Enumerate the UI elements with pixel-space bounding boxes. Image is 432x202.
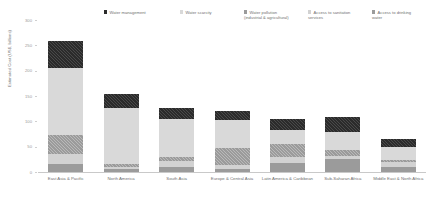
bar-segment xyxy=(381,160,416,163)
bar-segment xyxy=(215,165,250,169)
legend-label-drinking-water: Access to drinking water xyxy=(372,10,411,20)
y-axis-tick-mark xyxy=(35,45,37,46)
y-axis-tick-mark xyxy=(35,20,37,21)
legend-item-water-management[interactable]: Water management xyxy=(104,10,170,15)
bar-segment xyxy=(48,154,83,164)
bar-segment xyxy=(270,144,305,157)
legend-swatch-drinking-water xyxy=(372,10,375,13)
bar-segment xyxy=(325,117,360,132)
y-axis-tick-mark xyxy=(35,147,37,148)
bar-sub-saharan-africa[interactable] xyxy=(325,20,360,172)
y-axis-tick-label: 200 xyxy=(16,68,32,73)
y-axis-tick-label: 300 xyxy=(16,18,32,23)
y-axis-tick-label: 100 xyxy=(16,119,32,124)
legend-swatch-water-scarcity xyxy=(180,10,183,13)
bar-latin-america-caribbean[interactable] xyxy=(270,20,305,172)
x-axis-tick-label: North America xyxy=(93,176,148,182)
legend-label-water-pollution: Water pollution (industrial & agricultur… xyxy=(244,10,289,20)
bar-segment xyxy=(159,157,194,161)
bar-segment xyxy=(215,111,250,120)
bar-segment xyxy=(159,161,194,168)
x-axis-tick-label: Europe & Central Asia xyxy=(204,176,259,182)
bar-segment xyxy=(48,41,83,68)
bar-segment xyxy=(381,167,416,172)
bar-segment xyxy=(270,119,305,130)
bar-segment xyxy=(48,68,83,135)
legend-label-water-management: Water management xyxy=(110,10,146,15)
bar-segment xyxy=(215,169,250,172)
bar-segment xyxy=(270,157,305,163)
x-axis-tick-label: South Asia xyxy=(149,176,204,182)
bar-segment xyxy=(159,108,194,120)
bar-segment xyxy=(215,120,250,148)
bar-south-asia[interactable] xyxy=(159,20,194,172)
y-axis-tick-mark xyxy=(35,96,37,97)
y-axis-tick-label: 150 xyxy=(16,94,32,99)
bar-segment xyxy=(159,119,194,157)
legend-label-water-scarcity: Water scarcity xyxy=(186,10,212,15)
y-axis-tick-label: 0 xyxy=(16,170,32,175)
legend-item-water-scarcity[interactable]: Water scarcity xyxy=(180,10,240,15)
x-axis-tick-label: Latin America & Caribbean xyxy=(260,176,315,182)
bar-segment xyxy=(381,147,416,160)
bar-segment xyxy=(104,108,139,164)
y-axis-tick-mark xyxy=(35,172,37,173)
bar-segment xyxy=(159,167,194,172)
bar-segment xyxy=(325,159,360,172)
y-axis-tick-mark xyxy=(35,71,37,72)
bar-segment xyxy=(381,139,416,148)
y-axis-tick-label: 250 xyxy=(16,43,32,48)
y-axis-tick-label: 50 xyxy=(16,144,32,149)
bar-segment xyxy=(215,148,250,165)
legend-swatch-water-pollution xyxy=(244,10,247,13)
x-axis-tick-label: East Asia & Pacific xyxy=(38,176,93,182)
bar-segment xyxy=(325,156,360,159)
bar-east-asia-pacific[interactable] xyxy=(48,20,83,172)
bar-segment xyxy=(104,164,139,167)
bar-segment xyxy=(104,167,139,169)
bar-segment xyxy=(270,130,305,144)
x-axis-tick-label: Sub-Saharan Africa xyxy=(315,176,370,182)
legend-label-sanitation: Access to sanitation services xyxy=(308,10,350,20)
legend-swatch-sanitation xyxy=(308,10,311,13)
bar-europe-central-asia[interactable] xyxy=(215,20,250,172)
bar-segment xyxy=(104,169,139,172)
bar-middle-east-north-africa[interactable] xyxy=(381,20,416,172)
y-axis-title: Estimated Cost (US$, billions) xyxy=(7,11,12,107)
x-axis-line xyxy=(38,172,426,173)
bar-segment xyxy=(48,135,83,155)
bar-segment xyxy=(325,150,360,156)
bar-segment xyxy=(104,94,139,108)
legend-swatch-water-management xyxy=(104,10,107,13)
y-axis-tick-mark xyxy=(35,121,37,122)
bar-segment xyxy=(381,162,416,167)
x-axis-tick-label: Middle East & North Africa xyxy=(371,176,426,182)
bar-segment xyxy=(270,163,305,172)
bar-segment xyxy=(48,164,83,172)
stacked-bar-chart: Water management Water scarcity Water po… xyxy=(0,0,432,202)
bar-north-america[interactable] xyxy=(104,20,139,172)
bar-segment xyxy=(325,132,360,150)
